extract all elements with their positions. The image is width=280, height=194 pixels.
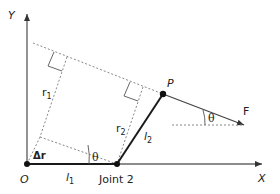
origin-label: O	[20, 173, 29, 186]
joint-2	[114, 161, 120, 167]
force-vector	[163, 94, 244, 125]
theta-force-label: θ	[208, 112, 215, 125]
joint2-label: Joint 2	[98, 173, 134, 186]
origin-joint	[24, 161, 30, 167]
theta-origin-label: θ	[92, 151, 99, 164]
point-p-label: P	[167, 77, 174, 90]
theta-arc-force	[203, 110, 205, 125]
l1-label: l1	[66, 171, 74, 186]
y-axis-label: Y	[8, 9, 16, 22]
x-axis-label: X	[257, 172, 266, 185]
right-angle-marker-1	[48, 52, 62, 71]
l2-label: l2	[144, 130, 152, 145]
theta-arc-origin	[88, 145, 89, 164]
force-label: F	[243, 105, 249, 118]
robot-arm-diagram: Y X O Joint 2 P F r1 r2 l1 l2 Δr θ θ	[0, 0, 280, 194]
r2-label: r2	[116, 122, 126, 137]
right-angle-marker-2	[124, 82, 138, 101]
upper-dotted-line	[33, 43, 163, 94]
delta-r-label: Δr	[33, 150, 46, 161]
r1-label: r1	[42, 86, 52, 101]
lower-dashed-line	[40, 137, 117, 164]
point-p	[160, 91, 166, 97]
